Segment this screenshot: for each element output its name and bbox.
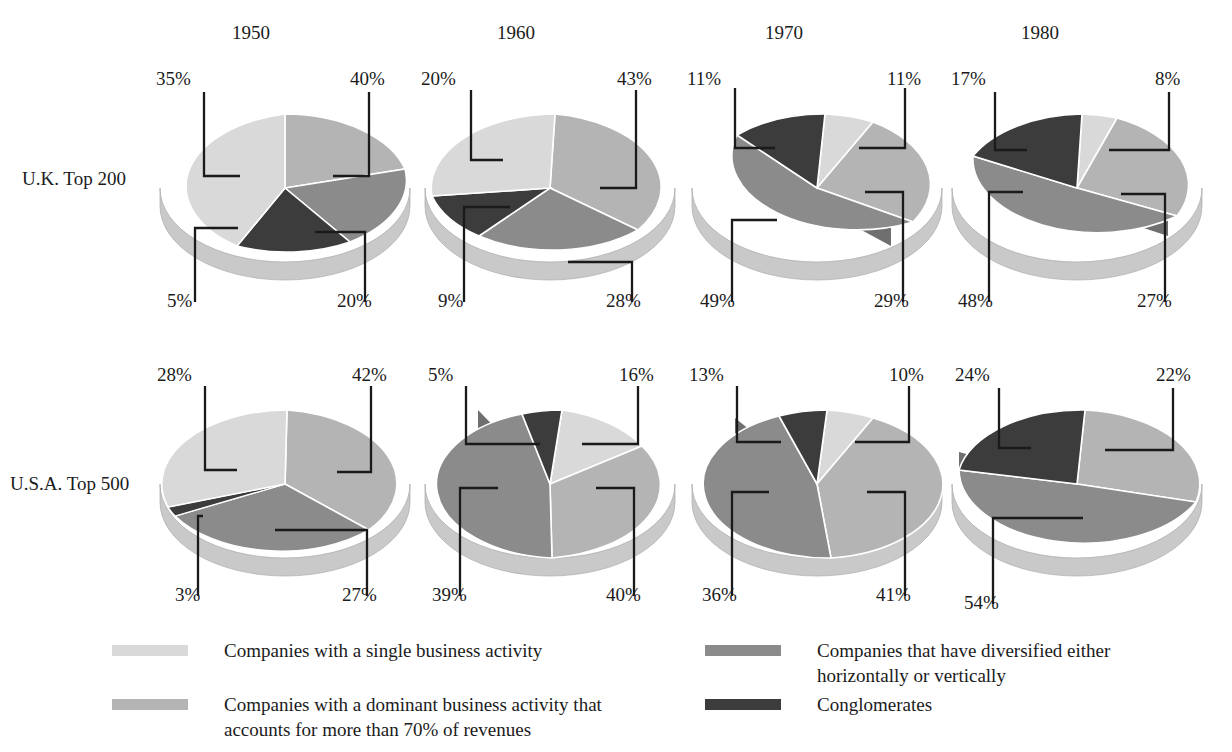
pie-label-bottom-right: 29% [874,290,909,312]
pie-chart-usa-1970: 13% 10% 36% 41% [677,366,967,656]
pie-label-top-right: 11% [887,68,921,90]
pie-label-top-left: 5% [428,364,453,386]
pie-label-bottom-right: 27% [1137,290,1172,312]
legend: Companies with a single business activit… [0,630,1232,752]
pie-chart-uk-1950: 35% 40% 5% 20% [145,70,435,360]
pie-slices [973,114,1189,233]
pie-label-bottom-right: 27% [342,584,377,606]
pie-slices [703,410,943,558]
legend-label-diversified-line1: Companies that have diversified either [817,638,1110,663]
slice-diversified [431,114,555,196]
pie-svg [145,366,435,616]
legend-item-diversified: Companies that have diversified either h… [705,638,1110,688]
legend-item-single: Companies with a single business activit… [112,638,542,663]
year-header-row: 1950 1960 1970 1980 [0,22,1232,48]
pie-label-top-left: 17% [951,68,986,90]
pie-chart-uk-1980: 17% 8% 48% 27% [937,70,1227,360]
pie-label-top-left: 11% [687,68,721,90]
pie-label-top-right: 40% [350,68,385,90]
pie-slices [959,410,1200,543]
legend-label-dominant: Companies with a dominant business activ… [224,692,602,742]
pie-label-bottom-left: 54% [964,592,999,614]
pie-label-bottom-left: 5% [167,290,192,312]
pie-label-bottom-left: 9% [438,290,463,312]
legend-swatch-dominant [112,699,188,710]
pie-label-top-left: 28% [157,364,192,386]
pie-label-top-right: 43% [617,68,652,90]
pie-label-bottom-right: 41% [876,584,911,606]
legend-item-conglomerates: Conglomerates [705,692,932,717]
legend-swatch-conglomerates [705,699,781,710]
pie-svg [410,70,700,320]
pie-label-top-right: 10% [889,364,924,386]
pie-svg [677,366,967,616]
pie-label-top-left: 24% [955,364,990,386]
legend-swatch-diversified [705,645,781,656]
pie-label-bottom-left: 36% [702,584,737,606]
row-label-uk: U.K. Top 200 [22,168,126,190]
pie-label-bottom-right: 40% [606,584,641,606]
pie-label-top-left: 20% [421,68,456,90]
year-header-1970: 1970 [744,22,824,44]
pie-svg [937,70,1227,320]
year-header-1960: 1960 [476,22,556,44]
legend-label-diversified: Companies that have diversified either h… [817,638,1110,688]
pie-chart-usa-1950: 28% 42% 3% 27% [145,366,435,656]
pie-label-bottom-left: 39% [432,584,467,606]
pie-label-top-right: 16% [619,364,654,386]
legend-label-diversified-line2: horizontally or vertically [817,663,1110,688]
pie-label-bottom-right: 28% [606,290,641,312]
pie-slices [431,114,661,250]
pie-label-top-left: 13% [689,364,724,386]
pie-label-top-left: 35% [156,68,191,90]
pie-slices [186,114,406,252]
legend-label-conglomerates: Conglomerates [817,692,932,717]
pie-label-bottom-right: 20% [337,290,372,312]
legend-item-dominant: Companies with a dominant business activ… [112,692,602,742]
pie-label-bottom-left: 3% [175,584,200,606]
pie-label-top-right: 42% [352,364,387,386]
legend-swatch-single [112,645,188,656]
pie-slices [436,410,660,558]
pie-label-top-right: 22% [1156,364,1191,386]
year-header-1980: 1980 [1000,22,1080,44]
row-label-usa: U.S.A. Top 500 [10,473,129,495]
legend-label-dominant-line1: Companies with a dominant business activ… [224,692,602,717]
pie-svg [145,70,435,320]
pie-label-bottom-left: 49% [700,290,735,312]
pie-svg [677,70,967,320]
pie-chart-uk-1960: 20% 43% 9% 28% [410,70,700,360]
pie-label-bottom-left: 48% [958,290,993,312]
year-header-1950: 1950 [211,22,291,44]
pie-svg [410,366,700,616]
legend-label-single: Companies with a single business activit… [224,638,542,663]
pie-chart-uk-1970: 11% 11% 49% 29% [677,70,967,360]
legend-label-dominant-line2: accounts for more than 70% of revenues [224,717,602,742]
pie-chart-usa-1960: 5% 16% 39% 40% [410,366,700,656]
pie-label-top-right: 8% [1155,68,1180,90]
pie-slices [732,114,931,230]
pie-svg [937,366,1227,616]
pie-chart-usa-1980: 24% 22% 54% [937,366,1227,656]
